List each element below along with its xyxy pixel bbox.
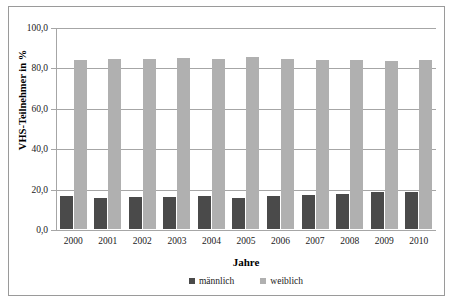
x-axis-tick-label: 2005 [229, 236, 264, 246]
bar-group [229, 27, 264, 229]
bar-group [401, 27, 436, 229]
bar-weiblich [316, 60, 329, 229]
bar-weiblich [177, 58, 190, 229]
bar-maennlich [198, 196, 211, 229]
x-axis-tick-label: 2010 [401, 236, 436, 246]
bar-group [298, 27, 333, 229]
bar-weiblich [350, 60, 363, 229]
plot-area [56, 28, 436, 230]
bar-maennlich [302, 195, 315, 229]
legend-entry: männlich [189, 276, 234, 286]
y-axis-tick-label: 40,0 [4, 144, 48, 154]
bar-maennlich [267, 196, 280, 229]
x-axis-tick-label: 2009 [367, 236, 402, 246]
y-axis-tick-label: 80,0 [4, 63, 48, 73]
bar-group [160, 27, 195, 229]
y-axis-tick-label: 60,0 [4, 104, 48, 114]
bar-maennlich [336, 194, 349, 229]
bar-group [56, 27, 91, 229]
bar-maennlich [405, 192, 418, 229]
bar-maennlich [232, 198, 245, 229]
bar-group [332, 27, 367, 229]
legend-label: männlich [199, 276, 234, 286]
bar-weiblich [108, 59, 121, 229]
y-axis-tick-label: 0,0 [4, 225, 48, 235]
x-axis-tick-label: 2008 [332, 236, 367, 246]
bar-group [263, 27, 298, 229]
x-axis-tick-label: 2004 [194, 236, 229, 246]
gridline [56, 230, 436, 231]
x-axis-title: Jahre [56, 256, 436, 268]
bar-group [125, 27, 160, 229]
legend-entry: weiblich [260, 276, 303, 286]
bar-weiblich [281, 59, 294, 229]
bar-group [91, 27, 126, 229]
y-axis-tick-label: 100,0 [4, 23, 48, 33]
x-axis-tick-label: 2007 [298, 236, 333, 246]
chart-legend: männlichweiblich [56, 276, 436, 286]
bar-weiblich [212, 59, 225, 229]
bar-group [367, 27, 402, 229]
bar-maennlich [60, 196, 73, 229]
bar-maennlich [163, 197, 176, 229]
x-axis-tick-label: 2001 [91, 236, 126, 246]
x-axis-tick-label: 2002 [125, 236, 160, 246]
y-axis-tick [51, 230, 56, 231]
bar-maennlich [371, 192, 384, 229]
legend-swatch-icon [189, 278, 195, 284]
legend-label: weiblich [270, 276, 303, 286]
x-axis-tick-label: 2006 [263, 236, 298, 246]
bar-maennlich [129, 197, 142, 229]
y-axis-tick-label: 20,0 [4, 185, 48, 195]
bar-maennlich [94, 198, 107, 230]
chart-container: VHS-Teilnehmer in % 0,020,040,060,080,01… [0, 0, 453, 308]
legend-swatch-icon [260, 278, 266, 284]
bar-weiblich [246, 57, 259, 229]
bar-weiblich [143, 59, 156, 229]
bar-weiblich [385, 61, 398, 229]
x-axis-tick-label: 2003 [160, 236, 195, 246]
bar-weiblich [74, 60, 87, 229]
bar-group [194, 27, 229, 229]
bar-weiblich [419, 60, 432, 229]
x-axis-tick-label: 2000 [56, 236, 91, 246]
